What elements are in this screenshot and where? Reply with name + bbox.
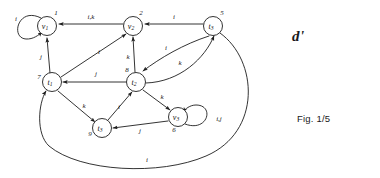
- node-t3-bottom[interactable]: t3 9: [88, 119, 111, 138]
- node-t1[interactable]: t1 7: [37, 73, 61, 92]
- edge-t1-tb: [58, 91, 95, 122]
- node-t2-index: 8: [125, 66, 129, 74]
- edge-t3-t1-outer: [40, 33, 249, 169]
- node-v3[interactable]: v3 6: [169, 108, 188, 134]
- edge-t3-t2: [143, 36, 209, 71]
- edge-label-outer: i: [146, 156, 148, 164]
- figure-caption: Fig. 1/5: [297, 113, 330, 124]
- graph-diagram: v1 1 v2 2 t3 5: [0, 0, 380, 178]
- edge-label-v3-tb: j: [138, 127, 141, 135]
- node-v1-index: 1: [54, 9, 58, 17]
- edge-label-v3-self: i,j: [216, 115, 222, 123]
- edge-t1-v2: [61, 34, 126, 77]
- edge-label-v1-self: i: [15, 15, 17, 23]
- node-t1-index: 7: [37, 73, 41, 81]
- node-v1[interactable]: v1 1: [38, 9, 58, 36]
- edge-label-t1-t2: j: [94, 70, 97, 78]
- figure-symbol-label: d': [292, 28, 305, 45]
- node-t2[interactable]: t2 8: [125, 66, 145, 92]
- node-t3-top[interactable]: t3 5: [204, 9, 225, 36]
- edge-label-t2-v3: k: [160, 93, 164, 101]
- node-v2-index: 2: [139, 9, 143, 17]
- edge-label-tb-t2: i: [118, 103, 120, 111]
- edge-t2-v3: [143, 90, 170, 110]
- edge-label-v2-v1: i,k: [88, 13, 96, 21]
- edge-label-t1-v1: j: [39, 53, 42, 61]
- edges-group: [18, 15, 249, 168]
- edge-label-t2-v2: k: [126, 53, 130, 61]
- node-v3-index: 6: [172, 126, 176, 134]
- edge-t1-v1: [47, 38, 50, 73]
- figure-container: v1 1 v2 2 t3 5: [0, 0, 380, 178]
- edge-tb-t2: [108, 92, 132, 120]
- edge-label-t3-t2: i: [165, 44, 167, 52]
- edge-label-t1-tb: k: [82, 102, 86, 110]
- edge-label-t2-t3: k: [178, 59, 182, 67]
- node-t3-bottom-index: 9: [88, 130, 92, 138]
- nodes-group: v1 1 v2 2 t3 5: [37, 9, 224, 138]
- edge-t2-v2: [133, 37, 135, 72]
- edge-label-t1-v2: i: [98, 48, 100, 56]
- node-t3-top-index: 5: [220, 9, 224, 17]
- edge-label-t3-v2: i: [173, 13, 175, 21]
- node-v2[interactable]: v2 2: [124, 9, 144, 36]
